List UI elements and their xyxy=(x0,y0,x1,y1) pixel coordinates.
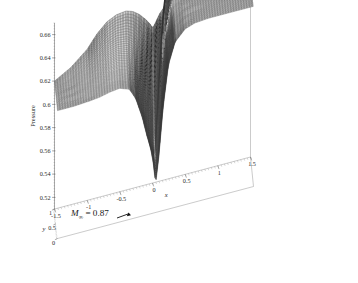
arrow-right-icon xyxy=(117,212,133,222)
mach-annotation: M∞ = 0.87 xyxy=(71,208,109,220)
mach-subscript: ∞ xyxy=(79,213,83,220)
mach-symbol: M xyxy=(71,208,79,218)
mach-value: = 0.87 xyxy=(85,208,109,218)
annotation-layer: M∞ = 0.87 xyxy=(0,0,358,283)
figure-canvas: 0.520.540.560.580.60.620.640.66Pressure-… xyxy=(0,0,358,283)
